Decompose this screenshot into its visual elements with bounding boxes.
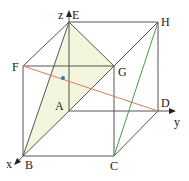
label-c: C	[110, 159, 118, 173]
label-e: E	[72, 8, 79, 22]
label-b: B	[25, 158, 33, 172]
segment-ch	[114, 22, 158, 156]
y-arrow-icon	[169, 108, 176, 114]
marked-point	[61, 76, 65, 80]
cube-diagram: z E H F G A D y x B C	[0, 0, 189, 181]
label-z: z	[58, 8, 63, 22]
label-d: D	[161, 96, 170, 110]
label-x: x	[6, 157, 12, 171]
label-f: F	[12, 60, 19, 74]
edge-dc	[114, 111, 158, 156]
label-g: G	[118, 65, 127, 79]
label-a: A	[55, 99, 64, 113]
edge-hg	[114, 22, 158, 66]
label-h: H	[161, 15, 170, 29]
label-y: y	[174, 115, 180, 129]
